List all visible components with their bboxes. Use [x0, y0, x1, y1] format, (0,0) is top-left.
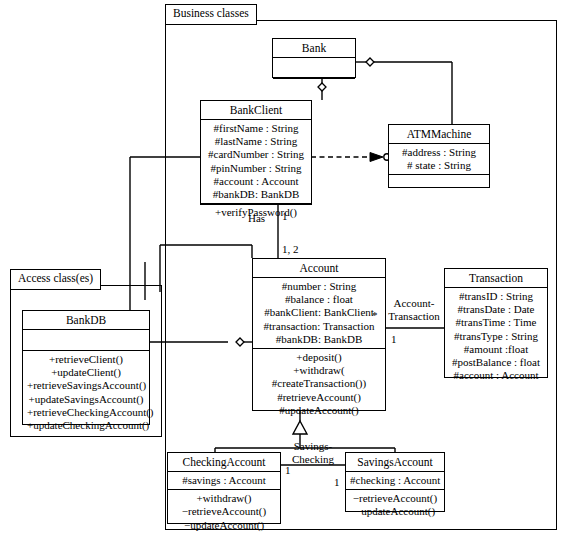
class-checkingaccount-name: CheckingAccount — [168, 453, 280, 472]
class-bank-attributes — [273, 58, 355, 79]
package-access-classes-tab: Access class(es) — [10, 269, 101, 290]
method: +withdraw() — [172, 492, 276, 505]
association-label-has: Has — [248, 212, 265, 225]
class-savingsaccount-methods: −retrieveAccount() −updateAccount() — [346, 490, 444, 520]
class-bank[interactable]: Bank — [272, 38, 356, 78]
attribute: #amount :float — [449, 343, 543, 356]
attribute: #number : String — [257, 280, 381, 293]
method: #retrieveAccount() — [257, 391, 381, 404]
association-has-line1: Has — [248, 212, 265, 224]
method: +deposit() — [257, 351, 381, 364]
attribute: #transaction: Transaction — [257, 320, 381, 333]
multiplicity-bankclient-account-bottom: 1, 2 — [282, 244, 299, 255]
attribute: #transType : String — [449, 330, 543, 343]
class-transaction-attributes: #transID : String #transDate : Date #tra… — [445, 288, 547, 384]
class-account-name: Account — [253, 259, 385, 278]
class-bankdb-name: BankDB — [23, 311, 149, 330]
class-checkingaccount[interactable]: CheckingAccount #savings : Account +with… — [167, 452, 281, 524]
attribute: #bankDB: BankDB — [205, 188, 307, 201]
package-business-classes-tab: Business classes — [165, 4, 257, 25]
association-account-transaction-line1: Account- — [388, 297, 440, 310]
attribute: #transID : String — [449, 290, 543, 303]
class-account[interactable]: Account #number : String #balance : floa… — [252, 258, 386, 411]
class-bankclient-attributes: #firstName : String #lastName : String #… — [201, 120, 311, 204]
package-business-classes-label: Business classes — [173, 7, 249, 19]
method: −retrieveAccount() — [172, 505, 276, 518]
association-savings-checking-line2: Checking — [283, 453, 343, 466]
association-label-savings-checking: Savings- Checking — [283, 440, 343, 465]
method: +retrieveClient() — [27, 353, 145, 366]
class-account-methods: +deposit() +withdraw( #createTransaction… — [253, 349, 385, 419]
multiplicity-savings-one: 1 — [334, 477, 340, 488]
attribute: #account : Account — [205, 175, 307, 188]
multiplicity-account-transaction-one: 1 — [391, 334, 397, 345]
class-checkingaccount-attributes: #savings : Account — [168, 472, 280, 490]
attribute: #savings : Account — [172, 474, 276, 487]
attribute: # state : String — [393, 159, 485, 172]
multiplicity-bankclient-account-top: 1 — [282, 211, 288, 222]
class-atmmachine-attributes: #address : String # state : String — [389, 144, 489, 175]
package-access-classes-label: Access class(es) — [18, 272, 93, 284]
method: #createTransaction()) — [257, 377, 381, 390]
attribute: #pinNumber : String — [205, 162, 307, 175]
uml-class-diagram: Business classes Access class(es) Bank B… — [0, 0, 565, 538]
multiplicity-checking-one: 1 — [285, 465, 291, 476]
attribute: #checking : Account — [350, 474, 440, 487]
method: −updateAccount() — [350, 505, 440, 518]
method: +withdraw( — [257, 364, 381, 377]
class-account-attributes: #number : String #balance : float #bankC… — [253, 278, 385, 349]
class-atmmachine-name: ATMMachine — [389, 125, 489, 144]
attribute: #transDate : Date — [449, 303, 543, 316]
attribute: #bankClient: BankClient — [257, 306, 381, 319]
class-savingsaccount-name: SavingsAccount — [346, 453, 444, 472]
class-savingsaccount[interactable]: SavingsAccount #checking : Account −retr… — [345, 452, 445, 512]
class-checkingaccount-methods: +withdraw() −retrieveAccount() −updateAc… — [168, 490, 280, 534]
class-bankdb[interactable]: BankDB +retrieveClient() +updateClient()… — [22, 310, 150, 425]
method: −retrieveAccount() — [350, 492, 440, 505]
class-atmmachine[interactable]: ATMMachine #address : String # state : S… — [388, 124, 490, 188]
class-transaction[interactable]: Transaction #transID : String #transDate… — [444, 268, 548, 378]
method: +updateSavingsAccount() — [27, 393, 145, 406]
method: +retrieveCheckingAccount() — [27, 406, 145, 419]
class-bankclient-name: BankClient — [201, 101, 311, 120]
attribute: #transTime : Time — [449, 316, 543, 329]
class-bankdb-methods: +retrieveClient() +updateClient() +retri… — [23, 351, 149, 434]
class-bank-methods — [273, 79, 355, 99]
attribute: #lastName : String — [205, 135, 307, 148]
association-account-transaction-line2: Transaction — [388, 310, 440, 323]
attribute: #account : Account — [449, 369, 543, 382]
attribute: #bankDB: BankDB — [257, 333, 381, 346]
attribute: #firstName : String — [205, 122, 307, 135]
association-savings-checking-line1: Savings- — [283, 440, 343, 453]
class-transaction-name: Transaction — [445, 269, 547, 288]
class-bankdb-attributes — [23, 330, 149, 351]
method: −updateAccount() — [172, 519, 276, 532]
multiplicity-account-transaction-star: * — [372, 310, 378, 321]
attribute: #balance : float — [257, 293, 381, 306]
method: +updateCheckingAccount() — [27, 419, 145, 432]
method: +retrieveSavingsAccount() — [27, 379, 145, 392]
class-bankclient[interactable]: BankClient #firstName : String #lastName… — [200, 100, 312, 205]
class-bank-name: Bank — [273, 39, 355, 58]
class-atmmachine-methods — [389, 175, 489, 195]
association-label-account-transaction: Account- Transaction — [388, 297, 440, 322]
class-savingsaccount-attributes: #checking : Account — [346, 472, 444, 490]
attribute: #cardNumber : String — [205, 148, 307, 161]
method: #updateAccount() — [257, 404, 381, 417]
attribute: #postBalance : float — [449, 356, 543, 369]
attribute: #address : String — [393, 146, 485, 159]
method: +updateClient() — [27, 366, 145, 379]
